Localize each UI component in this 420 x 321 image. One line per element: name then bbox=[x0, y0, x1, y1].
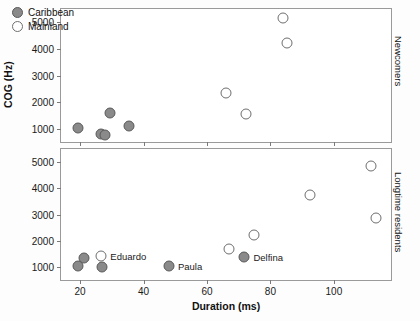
y-axis-tick-label: 4000 bbox=[32, 43, 54, 54]
y-axis-tick-label: 5000 bbox=[32, 157, 54, 168]
data-point-mainland bbox=[365, 161, 376, 172]
data-point-caribbean bbox=[78, 253, 89, 264]
x-axis-tick bbox=[207, 142, 208, 146]
panel-newcomers: 10002000300040005000 bbox=[60, 8, 392, 143]
x-axis-tick bbox=[334, 142, 335, 146]
x-axis-tick bbox=[144, 142, 145, 146]
legend-label-caribbean: Caribbean bbox=[28, 7, 74, 18]
x-axis-tick-label: 100 bbox=[326, 286, 343, 297]
y-axis-tick-label: 2000 bbox=[32, 235, 54, 246]
legend-item-mainland: Mainland bbox=[12, 19, 74, 33]
data-point-mainland bbox=[281, 37, 292, 48]
data-point-mainland bbox=[240, 109, 251, 120]
data-point-label: Delfina bbox=[253, 251, 283, 262]
data-point-mainland bbox=[223, 243, 234, 254]
y-axis-tick-label: 3000 bbox=[32, 70, 54, 81]
data-point-mainland bbox=[371, 213, 382, 224]
data-point-label: Eduardo bbox=[110, 251, 146, 262]
x-axis-tick-label: 60 bbox=[201, 286, 212, 297]
data-point-caribbean bbox=[97, 262, 108, 273]
y-axis-tick-label: 3000 bbox=[32, 209, 54, 220]
y-axis-tick-label: 4000 bbox=[32, 183, 54, 194]
x-axis-tick bbox=[80, 280, 81, 284]
filled-circle-icon bbox=[12, 7, 23, 18]
strip-label-longtime-residents: Longtime residents bbox=[393, 172, 404, 252]
y-axis-tick bbox=[57, 188, 61, 189]
data-point-caribbean bbox=[73, 123, 84, 134]
y-axis-tick bbox=[57, 102, 61, 103]
x-axis-tick bbox=[270, 280, 271, 284]
data-point-mainland bbox=[96, 251, 107, 262]
x-axis-tick bbox=[270, 142, 271, 146]
y-axis-tick-label: 1000 bbox=[32, 261, 54, 272]
legend: Caribbean Mainland bbox=[12, 5, 74, 33]
data-point-caribbean bbox=[163, 261, 174, 272]
x-axis-tick bbox=[207, 280, 208, 284]
y-axis-title: COG (Hz) bbox=[2, 61, 14, 108]
data-point-mainland bbox=[221, 88, 232, 99]
y-axis-tick bbox=[57, 241, 61, 242]
y-axis-tick bbox=[57, 162, 61, 163]
plot-area-newcomers: 10002000300040005000 bbox=[61, 9, 391, 142]
strip-label-newcomers: Newcomers bbox=[393, 36, 404, 86]
legend-item-caribbean: Caribbean bbox=[12, 5, 74, 19]
x-axis-tick-label: 40 bbox=[138, 286, 149, 297]
data-point-caribbean bbox=[104, 107, 115, 118]
scatter-plot-figure: COG (Hz) 10002000300040005000 1000200030… bbox=[0, 0, 420, 321]
legend-label-mainland: Mainland bbox=[28, 21, 69, 32]
data-point-mainland bbox=[248, 229, 259, 240]
y-axis-tick bbox=[57, 267, 61, 268]
y-axis-tick bbox=[57, 215, 61, 216]
plot-area-longtime-residents: 1000200030004000500020406080100PaulaDelf… bbox=[61, 149, 391, 280]
x-axis-tick bbox=[80, 142, 81, 146]
data-point-mainland bbox=[305, 190, 316, 201]
data-point-label: Paula bbox=[178, 261, 202, 272]
data-point-caribbean bbox=[124, 121, 135, 132]
x-axis-tick-label: 80 bbox=[265, 286, 276, 297]
y-axis-tick bbox=[57, 76, 61, 77]
data-point-mainland bbox=[278, 12, 289, 23]
panel-longtime-residents: 1000200030004000500020406080100PaulaDelf… bbox=[60, 148, 392, 281]
x-axis-tick-label: 20 bbox=[74, 286, 85, 297]
y-axis-tick-label: 2000 bbox=[32, 97, 54, 108]
x-axis-tick bbox=[144, 280, 145, 284]
y-axis-tick-label: 1000 bbox=[32, 123, 54, 134]
y-axis-tick bbox=[57, 129, 61, 130]
data-point-caribbean bbox=[99, 130, 110, 141]
y-axis-tick bbox=[57, 49, 61, 50]
open-circle-icon bbox=[12, 21, 23, 32]
data-point-caribbean bbox=[239, 251, 250, 262]
x-axis-tick bbox=[334, 280, 335, 284]
x-axis-title: Duration (ms) bbox=[60, 300, 392, 312]
